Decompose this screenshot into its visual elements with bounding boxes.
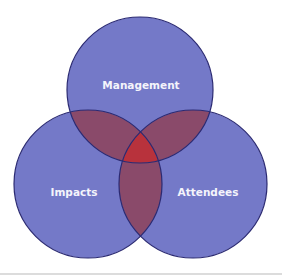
venn-diagram: Management Impacts Attendees: [0, 0, 282, 276]
label-attendees: Attendees: [178, 186, 239, 198]
bottom-divider: [0, 273, 282, 275]
label-impacts: Impacts: [51, 186, 98, 198]
label-management: Management: [102, 79, 179, 91]
